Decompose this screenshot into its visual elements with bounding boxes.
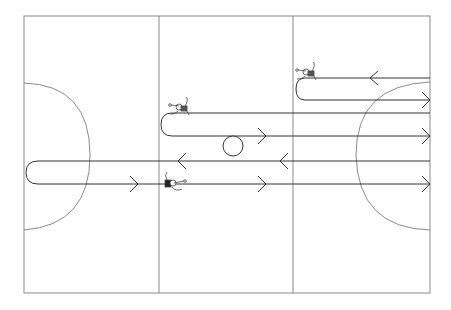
- goal-area-right: [356, 82, 430, 230]
- drill-diagram: handball-drill: [0, 0, 451, 310]
- player-mid-icon: [169, 97, 189, 115]
- player-bottom-icon: [165, 172, 186, 190]
- player-top-icon: [296, 62, 316, 80]
- court-svg: [0, 0, 451, 310]
- path-bottom-loop: [26, 161, 430, 184]
- path-top-loop: [296, 78, 430, 100]
- goal-area-left: [24, 83, 90, 230]
- direction-arrows: [130, 71, 430, 192]
- path-mid-loop: [161, 113, 430, 136]
- ball-icon: [223, 136, 243, 156]
